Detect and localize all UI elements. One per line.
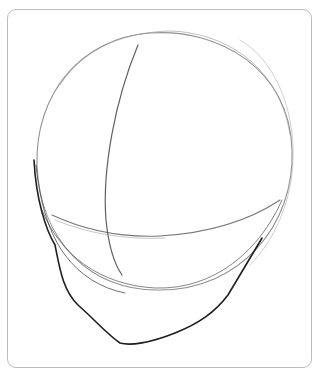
cranium-circle-overstroke (60, 31, 290, 135)
cranium-lower-arc (42, 200, 282, 288)
head-sketch (0, 0, 318, 378)
cranium-circle-overstroke-2 (240, 40, 293, 265)
jaw-outline (34, 160, 262, 344)
horizontal-guideline (52, 200, 280, 236)
vertical-guideline (105, 45, 138, 275)
